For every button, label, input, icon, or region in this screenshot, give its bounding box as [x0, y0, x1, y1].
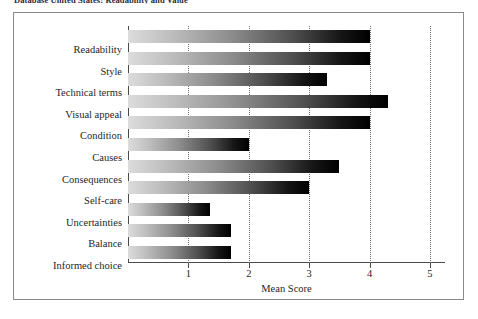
y-category-label: Balance — [88, 237, 122, 250]
figure-caption: Database United States: Readability and … — [14, 0, 414, 4]
bar-row: Condition — [128, 116, 370, 129]
bar — [128, 52, 370, 65]
y-category-label: Style — [100, 65, 122, 78]
bar-row: Informed choice — [128, 246, 231, 259]
bar — [128, 73, 327, 86]
y-category-label: Technical terms — [55, 86, 122, 99]
bar — [128, 138, 249, 151]
bar — [128, 181, 309, 194]
plot-area: ReadabilityStyleTechnical termsVisual ap… — [128, 26, 445, 263]
x-tick-label: 2 — [246, 268, 251, 279]
bar-row: Balance — [128, 224, 231, 237]
y-category-label: Uncertainties — [66, 216, 122, 229]
bar-row: Uncertainties — [128, 203, 210, 216]
bar — [128, 160, 339, 173]
bar-row: Causes — [128, 138, 249, 151]
bar — [128, 116, 370, 129]
bar-row: Self-care — [128, 181, 309, 194]
bar — [128, 30, 370, 43]
y-category-label: Consequences — [62, 173, 122, 186]
bar-row: Technical terms — [128, 73, 327, 86]
figure-container: Database United States: Readability and … — [0, 0, 478, 319]
bar-row: Visual appeal — [128, 95, 388, 108]
y-category-label: Informed choice — [53, 259, 122, 272]
bar-row: Readability — [128, 30, 370, 43]
y-category-label: Self-care — [84, 194, 122, 207]
bar — [128, 246, 231, 259]
bars-group: ReadabilityStyleTechnical termsVisual ap… — [128, 26, 445, 263]
x-tick-label: 5 — [427, 268, 432, 279]
x-tick-label: 4 — [367, 268, 372, 279]
bar-row: Consequences — [128, 160, 339, 173]
y-category-label: Causes — [92, 151, 122, 164]
x-tick-label: 1 — [186, 268, 191, 279]
y-category-label: Condition — [80, 129, 122, 142]
bar — [128, 224, 231, 237]
y-category-label: Visual appeal — [65, 108, 122, 121]
bar-row: Style — [128, 52, 370, 65]
x-axis-title: Mean Score — [261, 283, 311, 294]
bar — [128, 95, 388, 108]
y-category-label: Readability — [74, 43, 122, 56]
bar — [128, 203, 210, 216]
x-tick-label: 3 — [307, 268, 312, 279]
